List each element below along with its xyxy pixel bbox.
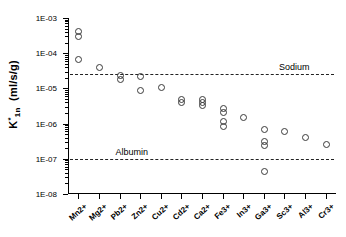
x-axis-tick-label: Ga3+: [253, 202, 274, 222]
y-axis-tick-label: 1E-07: [36, 154, 57, 163]
x-axis-tick-label: Ca2+: [192, 202, 212, 222]
y-axis-tick-label: 1E-03: [36, 14, 57, 23]
y-axis-minor-tick: [65, 92, 68, 93]
x-axis-tick-label: Cd2+: [171, 202, 192, 222]
y-axis-minor-tick: [65, 72, 68, 73]
y-axis-line: [68, 18, 69, 194]
x-axis-tick-label: Pb2+: [109, 202, 129, 222]
data-point: [178, 99, 185, 106]
y-axis-minor-tick: [65, 36, 68, 37]
y-axis-minor-tick: [65, 164, 68, 165]
x-axis-tick-label: In3+: [235, 202, 253, 220]
x-axis-tick: [140, 194, 141, 199]
y-axis-minor-tick: [65, 169, 68, 170]
data-point: [261, 126, 268, 133]
y-axis-minor-tick: [65, 142, 68, 143]
y-axis-minor-tick: [65, 32, 68, 33]
data-point: [240, 114, 247, 121]
data-point: [220, 123, 227, 130]
y-axis-minor-tick: [65, 29, 68, 30]
y-axis-minor-tick: [65, 167, 68, 168]
y-axis-title-container: K*1n (ml/s/g): [0, 0, 24, 200]
y-axis-minor-tick: [65, 102, 68, 103]
x-axis-tick: [78, 194, 79, 199]
y-axis-title-subscript: 1n: [13, 107, 22, 117]
y-axis-minor-tick: [65, 183, 68, 184]
y-axis-title: K*1n (ml/s/g): [6, 14, 23, 174]
data-point: [199, 102, 206, 109]
x-axis-tick: [264, 194, 265, 199]
y-axis-minor-tick: [65, 23, 68, 24]
x-axis-tick: [99, 194, 100, 199]
x-axis-tick: [326, 194, 327, 199]
y-axis-title-units: (ml/s/g): [7, 60, 19, 101]
y-axis-minor-tick: [65, 59, 68, 60]
plot-area: 1E-031E-041E-051E-061E-071E-08 Mn2+Mg2+P…: [68, 18, 336, 194]
y-axis-minor-tick: [65, 61, 68, 62]
data-point: [323, 141, 330, 148]
x-axis-tick: [181, 194, 182, 199]
reference-line-albumin: [70, 159, 334, 160]
y-axis-minor-tick: [65, 134, 68, 135]
data-point: [96, 64, 103, 71]
data-point: [220, 109, 227, 116]
y-axis-minor-tick: [65, 138, 68, 139]
y-axis-minor-tick: [65, 96, 68, 97]
x-axis-tick-label: Mn2+: [67, 202, 88, 223]
x-axis-tick: [243, 194, 244, 199]
x-axis-tick: [161, 194, 162, 199]
x-axis-tick-label: Cr3+: [316, 202, 335, 221]
x-axis-tick: [120, 194, 121, 199]
reference-line-label-sodium: Sodium: [277, 62, 312, 72]
data-point: [137, 87, 144, 94]
y-axis-tick-label: 1E-08: [36, 190, 57, 199]
data-point: [75, 33, 82, 40]
reference-line-label-albumin: Albumin: [114, 147, 151, 157]
x-axis-tick-label: Fe3+: [213, 202, 233, 221]
y-axis-minor-tick: [65, 55, 68, 56]
x-axis-tick: [284, 194, 285, 199]
data-point: [302, 134, 309, 141]
y-axis-minor-tick: [65, 78, 68, 79]
y-axis-minor-tick: [65, 67, 68, 68]
reference-line-sodium: [70, 74, 334, 75]
data-point: [75, 56, 82, 63]
x-axis-tick: [223, 194, 224, 199]
y-axis-minor-tick: [65, 148, 68, 149]
y-axis-minor-tick: [65, 125, 68, 126]
x-axis-tick-label: Al3+: [296, 202, 315, 220]
x-axis-tick: [202, 194, 203, 199]
y-axis-minor-tick: [65, 64, 68, 65]
y-axis-minor-tick: [65, 113, 68, 114]
x-axis-tick-label: Zn2+: [130, 202, 150, 221]
data-point: [281, 128, 288, 135]
data-point: [158, 84, 165, 91]
data-point: [261, 168, 268, 175]
x-axis-tick-label: Sc3+: [274, 202, 294, 221]
y-axis-minor-tick: [65, 107, 68, 108]
y-axis-minor-tick: [65, 131, 68, 132]
chart-figure: K*1n (ml/s/g) 1E-031E-041E-051E-061E-071…: [0, 0, 346, 237]
y-axis-minor-tick: [65, 26, 68, 27]
y-axis-tick-label: 1E-06: [36, 119, 57, 128]
y-axis-minor-tick: [65, 90, 68, 91]
y-axis-minor-tick: [65, 162, 68, 163]
data-point: [261, 142, 268, 149]
y-axis-minor-tick: [65, 99, 68, 100]
y-axis-minor-tick: [65, 20, 68, 21]
x-axis-tick-label: Mg2+: [88, 202, 109, 223]
y-axis-minor-tick: [65, 129, 68, 130]
x-axis-tick: [305, 194, 306, 199]
x-axis-tick-label: Cu2+: [150, 202, 171, 222]
y-axis-title-base: K: [7, 121, 19, 129]
y-axis-minor-tick: [65, 43, 68, 44]
y-axis-minor-tick: [65, 160, 68, 161]
y-axis-minor-tick: [65, 21, 68, 22]
data-point: [137, 73, 144, 80]
data-point: [117, 76, 124, 83]
y-axis-minor-tick: [65, 57, 68, 58]
y-axis-title-superscript: *: [6, 117, 15, 120]
y-axis-minor-tick: [65, 94, 68, 95]
y-axis-tick-label: 1E-04: [36, 49, 57, 58]
y-axis-minor-tick: [65, 127, 68, 128]
